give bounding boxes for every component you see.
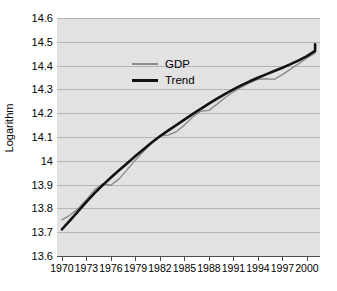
y-axis-tick-label: 13.9 [32,179,53,190]
x-axis-tick-label: 1994 [246,263,269,274]
x-axis-tick-mark [209,256,210,261]
chart-legend: GDPTrend [132,56,212,88]
y-axis-tick-label: 14.5 [32,36,53,47]
plot-area: GDPTrend [57,18,320,256]
legend-label: Trend [165,74,195,86]
series-layer [57,18,320,256]
x-axis-tick-label: 1988 [197,263,220,274]
x-axis-tick-mark [282,256,283,261]
x-axis-tick-label: 1970 [50,263,73,274]
x-axis-tick-mark [160,256,161,261]
y-axis-tick-label: 13.6 [32,251,53,262]
x-axis-tick-label: 1997 [271,263,294,274]
x-axis-tick-label: 1985 [173,263,196,274]
legend-swatch-trend-icon [132,79,158,82]
legend-label: GDP [165,58,190,70]
y-axis-tick-label: 14 [41,155,53,166]
x-axis-tick-mark [307,256,308,261]
x-axis-tick-label: 1982 [148,263,171,274]
y-axis-tick-label: 13.7 [32,227,53,238]
y-axis-tick-label: 14.1 [32,132,53,143]
x-axis-tick-label: 1973 [75,263,98,274]
legend-swatch-gdp-icon [132,63,158,65]
legend-item-gdp[interactable]: GDP [132,56,212,72]
x-axis-tick-label: 1991 [222,263,245,274]
y-axis-tick-label: 14.2 [32,108,53,119]
x-axis-tick-mark [184,256,185,261]
x-axis-tick-mark [258,256,259,261]
y-axis-tick-label: 13.8 [32,203,53,214]
chart-figure: Logarithm 14.614.514.414.314.214.11413.9… [0,0,337,291]
x-axis-tick-mark [62,256,63,261]
y-axis-tick-labels: 14.614.514.414.314.214.11413.913.813.713… [14,0,56,262]
legend-item-trend[interactable]: Trend [132,72,212,88]
y-axis-tick-label: 14.3 [32,84,53,95]
x-axis-line [57,256,320,257]
x-axis-tick-label: 1976 [99,263,122,274]
x-axis-tick-label: 2000 [295,263,318,274]
x-axis-tick-label: 1979 [124,263,147,274]
y-axis-tick-label: 14.6 [32,13,53,24]
x-axis-tick-mark [111,256,112,261]
x-axis-tick-mark [233,256,234,261]
y-axis-tick-label: 14.4 [32,60,53,71]
x-axis-tick-mark [135,256,136,261]
x-axis-tick-mark [86,256,87,261]
